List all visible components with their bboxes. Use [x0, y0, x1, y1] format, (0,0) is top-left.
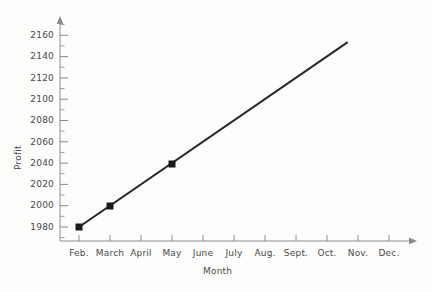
x-tick-label: Dec. [368, 248, 410, 258]
y-tick-label: 2140 [20, 51, 54, 61]
y-tick-label: 2040 [20, 158, 54, 168]
data-point-marker [76, 224, 83, 231]
y-tick-label: 1980 [20, 222, 54, 232]
y-tick-label: 2160 [20, 30, 54, 40]
y-tick-label: 2000 [20, 200, 54, 210]
y-axis-title: Profit [13, 145, 23, 170]
y-tick-label: 2080 [20, 115, 54, 125]
x-axis-title: Month [203, 266, 232, 276]
y-tick-label: 2020 [20, 179, 54, 189]
data-point-marker [169, 161, 176, 168]
profit-trend-line [79, 43, 347, 227]
data-point-marker [107, 203, 114, 210]
y-tick-label: 2060 [20, 137, 54, 147]
y-tick-label: 2120 [20, 73, 54, 83]
x-axis-arrowhead [409, 238, 417, 245]
x-axis-ticks [79, 235, 389, 241]
profit-by-month-line-chart: 2160 2140 2120 2100 2080 2060 2040 2020 … [0, 0, 432, 292]
y-axis-arrowhead [57, 16, 64, 24]
y-tick-label: 2100 [20, 94, 54, 104]
